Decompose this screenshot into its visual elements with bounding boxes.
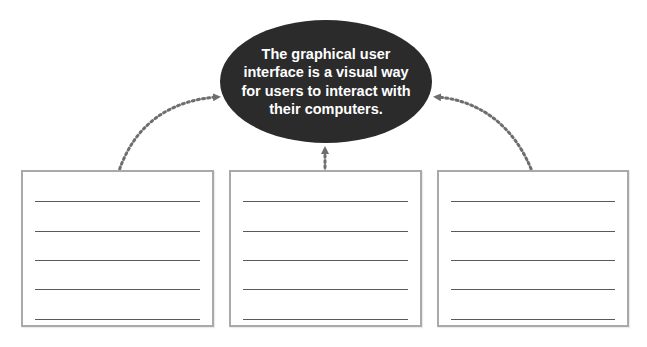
writing-line xyxy=(243,201,408,202)
writing-line xyxy=(243,260,408,261)
concept-map: The graphical user interface is a visual… xyxy=(0,0,647,347)
writing-line xyxy=(243,289,408,290)
central-text-line: for users to interact with xyxy=(236,82,416,101)
answer-box-right[interactable] xyxy=(437,170,629,327)
connector-right-arrow xyxy=(437,97,533,174)
writing-line xyxy=(451,231,615,232)
central-text-line: The graphical user xyxy=(236,45,416,64)
connector-left-arrow xyxy=(118,97,217,174)
answer-box-middle[interactable] xyxy=(229,170,422,327)
central-concept-text: The graphical user interface is a visual… xyxy=(236,45,416,119)
central-concept-bubble: The graphical user interface is a visual… xyxy=(220,20,432,143)
writing-line xyxy=(243,319,408,320)
writing-line xyxy=(451,319,615,320)
writing-line xyxy=(451,260,615,261)
central-text-line: their computers. xyxy=(236,100,416,119)
central-text-line: interface is a visual way xyxy=(236,63,416,82)
writing-line xyxy=(35,289,200,290)
writing-line xyxy=(451,289,615,290)
writing-line xyxy=(451,201,615,202)
writing-line xyxy=(243,231,408,232)
writing-line xyxy=(35,319,200,320)
answer-box-left[interactable] xyxy=(21,170,214,327)
writing-line xyxy=(35,260,200,261)
writing-line xyxy=(35,231,200,232)
writing-line xyxy=(35,201,200,202)
